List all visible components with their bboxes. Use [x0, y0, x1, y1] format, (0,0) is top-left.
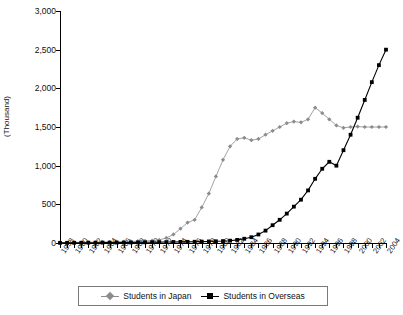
- diamond-marker-icon: [299, 120, 303, 124]
- square-marker-icon: [143, 240, 147, 244]
- legend-label: Students in Japan: [123, 291, 191, 301]
- square-marker-icon: [285, 212, 289, 216]
- square-marker-icon: [299, 198, 303, 202]
- square-marker-icon: [278, 218, 282, 222]
- diamond-marker-icon: [270, 129, 274, 133]
- diamond-marker-icon: [306, 117, 310, 121]
- square-marker-icon: [349, 133, 353, 137]
- square-marker-icon: [186, 240, 190, 244]
- diamond-marker-icon: [193, 218, 197, 222]
- diamond-marker-icon: [363, 125, 367, 129]
- square-marker-icon: [228, 239, 232, 243]
- square-marker-icon: [129, 241, 133, 245]
- square-marker-icon: [136, 240, 140, 244]
- square-marker-icon: [264, 229, 268, 233]
- diamond-marker-icon: [256, 137, 260, 141]
- square-marker-icon: [65, 241, 69, 245]
- diamond-marker-icon: [278, 125, 282, 129]
- square-marker-icon: [79, 241, 83, 245]
- diamond-marker-icon: [221, 158, 225, 162]
- square-marker-icon: [242, 237, 246, 241]
- legend-item-students-in-japan[interactable]: Students in Japan: [101, 291, 191, 301]
- square-marker-icon: [363, 98, 367, 102]
- square-marker-icon: [384, 48, 388, 52]
- series-students-in-overseas: [58, 48, 388, 245]
- diamond-marker-icon: [292, 119, 296, 123]
- chart-container: (Thousand) 05001,0001,5002,0002,5003,000…: [0, 0, 403, 315]
- square-marker-icon: [313, 177, 317, 181]
- square-marker-icon: [58, 241, 62, 245]
- square-marker-icon: [292, 205, 296, 209]
- square-marker-icon: [334, 164, 338, 168]
- series-line: [60, 108, 386, 243]
- square-marker-icon: [327, 160, 331, 164]
- square-marker-icon: [72, 241, 76, 245]
- diamond-marker-icon: [384, 125, 388, 129]
- square-marker-icon: [179, 240, 183, 244]
- square-marker-icon: [214, 239, 218, 243]
- square-marker-icon: [101, 241, 105, 245]
- square-marker-icon: [320, 167, 324, 171]
- square-marker-icon: [108, 241, 112, 245]
- chart-legend: Students in JapanStudents in Overseas: [78, 286, 328, 306]
- diamond-marker-icon: [370, 125, 374, 129]
- series-students-in-japan: [58, 106, 388, 245]
- series-plot-area: [0, 0, 403, 315]
- legend-label: Students in Overseas: [223, 291, 304, 301]
- diamond-marker-icon: [377, 125, 381, 129]
- diamond-marker-icon: [164, 236, 168, 240]
- square-marker-icon: [271, 223, 275, 227]
- square-marker-icon: [377, 63, 381, 67]
- square-marker-icon: [235, 238, 239, 242]
- diamond-marker-icon: [207, 191, 211, 195]
- square-marker-icon: [122, 241, 126, 245]
- diamond-marker-icon: [356, 124, 360, 128]
- square-marker-icon: [306, 189, 310, 193]
- diamond-marker-icon: [242, 136, 246, 140]
- diamond-marker-icon: [101, 291, 119, 301]
- square-marker-icon: [200, 240, 204, 244]
- square-marker-icon: [86, 241, 90, 245]
- diamond-marker-icon: [263, 133, 267, 137]
- diamond-marker-icon: [200, 205, 204, 209]
- square-marker-icon: [115, 241, 119, 245]
- diamond-marker-icon: [214, 174, 218, 178]
- diamond-marker-icon: [285, 121, 289, 125]
- square-marker-icon: [193, 240, 197, 244]
- legend-item-students-in-overseas[interactable]: Students in Overseas: [201, 291, 304, 301]
- diamond-marker-icon: [348, 125, 352, 129]
- square-marker-icon: [150, 240, 154, 244]
- series-line: [60, 50, 386, 243]
- square-marker-icon: [157, 240, 161, 244]
- square-marker-icon: [171, 240, 175, 244]
- square-marker-icon: [249, 235, 253, 239]
- diamond-marker-icon: [341, 126, 345, 130]
- square-marker-icon: [207, 240, 211, 244]
- square-marker-icon: [342, 148, 346, 152]
- square-marker-icon: [356, 116, 360, 120]
- square-marker-icon: [257, 233, 261, 237]
- diamond-marker-icon: [249, 138, 253, 142]
- square-marker-icon: [221, 239, 225, 243]
- square-marker-icon: [94, 241, 98, 245]
- square-marker-icon: [164, 240, 168, 244]
- square-marker-icon: [201, 291, 219, 301]
- square-marker-icon: [370, 80, 374, 84]
